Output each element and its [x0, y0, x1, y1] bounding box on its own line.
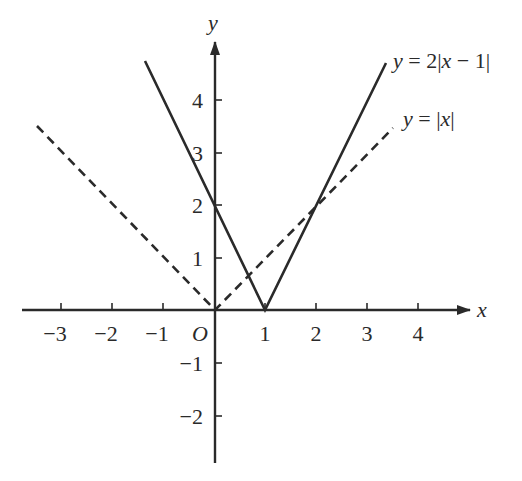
eq-y: y [391, 48, 403, 73]
y-tick-label: −2 [180, 404, 203, 429]
x-axis-label: x [476, 297, 487, 322]
x-tick-labels: −3 −2 −1 1 2 3 4 [43, 321, 423, 346]
eq-x: x [440, 106, 451, 131]
x-tick-label: 4 [413, 321, 424, 346]
graph-canvas: −3 −2 −1 1 2 3 4 4 3 2 1 −1 −2 O x y y =… [0, 0, 522, 481]
eq-rest: = | [413, 106, 441, 131]
y-tick-label: 4 [192, 88, 203, 113]
y-tick-label: −1 [180, 351, 203, 376]
eq-y: y [401, 106, 413, 131]
origin-label: O [192, 321, 208, 346]
x-tick-label: 1 [260, 321, 271, 346]
equation-label-dashed: y = |x| [401, 106, 455, 131]
y-tick-label: 1 [192, 246, 203, 271]
x-tick-label: −2 [94, 321, 117, 346]
series-2-abs-x-minus-1 [145, 61, 386, 310]
x-tick-label: 2 [311, 321, 322, 346]
eq-tail: | [450, 106, 454, 131]
y-axis-label: y [206, 10, 218, 35]
y-tick-label: 2 [192, 193, 203, 218]
x-tick-label: 3 [362, 321, 373, 346]
equation-label-solid: y = 2|x − 1| [391, 48, 490, 73]
eq-rest: = 2| [403, 48, 442, 73]
eq-x: x [441, 48, 452, 73]
x-tick-label: −1 [145, 321, 168, 346]
eq-tail: − 1| [451, 48, 490, 73]
x-tick-label: −3 [43, 321, 66, 346]
